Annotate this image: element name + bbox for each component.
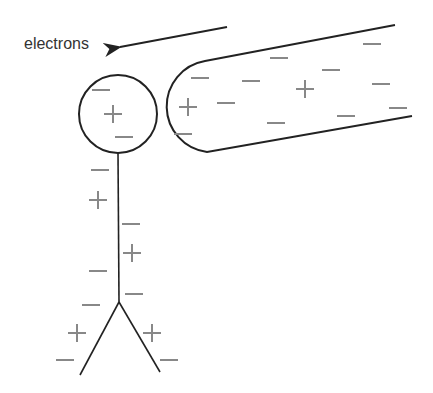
electroscope-leaf-left bbox=[80, 302, 119, 375]
plus-charge-icon bbox=[179, 98, 197, 116]
electroscope-leaf-right bbox=[119, 302, 160, 372]
electroscope-diagram bbox=[0, 0, 433, 393]
electroscope-stem bbox=[118, 153, 119, 302]
plus-charge-icon bbox=[104, 105, 122, 123]
plus-charge-icon bbox=[123, 244, 141, 262]
plus-charge-icon bbox=[89, 191, 107, 209]
charge-symbols bbox=[56, 44, 407, 360]
plus-charge-icon bbox=[296, 80, 314, 98]
electron-flow-arrow bbox=[120, 27, 227, 47]
plus-charge-icon bbox=[143, 324, 161, 342]
electrons-label: electrons bbox=[24, 35, 89, 53]
plus-charge-icon bbox=[68, 324, 86, 342]
